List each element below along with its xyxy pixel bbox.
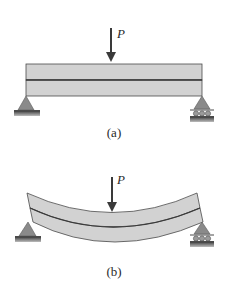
beam-a (26, 64, 202, 96)
pin-support-icon (15, 222, 41, 242)
down-arrow-icon (106, 28, 116, 62)
caption-b: (b) (106, 264, 121, 279)
caption-a: (a) (107, 125, 121, 140)
panel-b: P (b) (15, 172, 214, 279)
down-arrow-icon (107, 177, 117, 212)
roller-support-icon (190, 96, 214, 122)
load-label-b: P (116, 172, 125, 187)
pin-support-icon (14, 96, 40, 116)
panel-a: P (a) (14, 26, 214, 140)
beam-diagram: P (a) P (0, 0, 228, 291)
load-label-a: P (116, 26, 125, 41)
